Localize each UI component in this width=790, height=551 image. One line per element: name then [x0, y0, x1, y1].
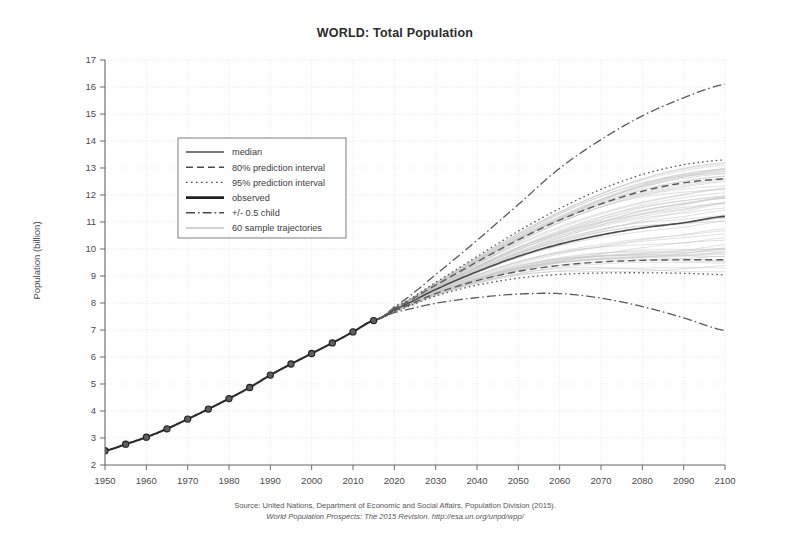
y-tick-label: 9: [91, 270, 96, 281]
observed-data-point: [309, 350, 315, 356]
x-tick-label: 2040: [466, 475, 487, 486]
observed-data-point: [226, 395, 232, 401]
x-tick-label: 2090: [673, 475, 694, 486]
sample-trajectory: [374, 180, 725, 321]
legend-label: 60 sample trajectories: [232, 223, 322, 233]
y-tick-label: 10: [85, 243, 96, 254]
x-tick-label: 1970: [177, 475, 198, 486]
x-tick-label: 2050: [508, 475, 529, 486]
x-tick-label: 1960: [136, 475, 157, 486]
observed-data-point: [143, 434, 149, 440]
y-tick-label: 3: [91, 432, 96, 443]
observed-data-point: [247, 384, 253, 390]
legend-label: observed: [232, 193, 270, 203]
y-tick-label: 5: [91, 378, 96, 389]
observed-data-point: [267, 372, 273, 378]
y-tick-label: 12: [85, 189, 96, 200]
y-tick-label: 11: [86, 216, 96, 227]
y-tick-label: 17: [85, 54, 96, 65]
y-tick-label: 6: [91, 351, 96, 362]
source-line-1: Source: United Nations, Department of Ec…: [0, 500, 790, 511]
x-tick-label: 1950: [94, 475, 115, 486]
x-tick-label: 2060: [549, 475, 570, 486]
source-line-2: World Population Prospects: The 2015 Rev…: [0, 511, 790, 522]
chart-title: WORLD: Total Population: [0, 26, 790, 40]
y-axis-title: Population (billion): [31, 181, 42, 341]
sample-trajectory: [374, 238, 725, 321]
sample-trajectory: [374, 254, 725, 320]
observed-data-point: [164, 426, 170, 432]
y-axis-ticks: 234567891011121314151617: [85, 54, 105, 470]
observed-data-point: [288, 361, 294, 367]
observed-data-point: [371, 317, 377, 323]
x-tick-label: 2010: [342, 475, 363, 486]
observed-data-point: [123, 441, 129, 447]
y-tick-label: 16: [85, 81, 96, 92]
observed-markers: [102, 317, 377, 453]
observed-data-point: [205, 406, 211, 412]
y-tick-label: 2: [91, 459, 96, 470]
source-note: Source: United Nations, Department of Ec…: [0, 500, 790, 522]
x-tick-label: 2080: [632, 475, 653, 486]
x-axis-ticks: 1950196019701980199020002010202020302040…: [94, 465, 735, 486]
sample-trajectory: [374, 193, 725, 321]
observed-data-point: [350, 329, 356, 335]
sample-trajectory: [374, 229, 725, 321]
x-tick-label: 1980: [218, 475, 239, 486]
legend-label: 80% prediction interval: [232, 163, 325, 173]
y-tick-label: 8: [91, 297, 96, 308]
y-tick-label: 14: [85, 135, 96, 146]
x-tick-label: 2020: [384, 475, 405, 486]
legend-label: +/- 0.5 child: [232, 208, 280, 218]
y-tick-label: 13: [85, 162, 96, 173]
y-tick-label: 4: [91, 405, 96, 416]
observed-data-point: [329, 340, 335, 346]
plot-area: 1950196019701980199020002010202020302040…: [0, 0, 790, 500]
x-tick-label: 2100: [714, 475, 735, 486]
x-tick-label: 2000: [301, 475, 322, 486]
chart-legend: median80% prediction interval95% predict…: [178, 138, 346, 238]
y-tick-label: 15: [85, 108, 96, 119]
y-tick-label: 7: [91, 324, 96, 335]
x-tick-label: 1990: [260, 475, 281, 486]
observed-data-point: [185, 416, 191, 422]
legend-label: median: [232, 147, 262, 157]
sample-trajectory: [374, 186, 725, 320]
x-tick-label: 2070: [590, 475, 611, 486]
legend-label: 95% prediction interval: [232, 178, 325, 188]
x-tick-label: 2030: [425, 475, 446, 486]
chart-figure: WORLD: Total Population Population (bill…: [0, 0, 790, 551]
